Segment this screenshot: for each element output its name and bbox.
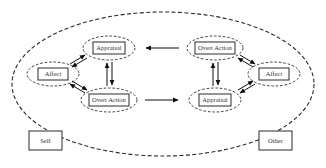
self-overt-action-label: Overt Action (92, 96, 127, 103)
other-affect-label: Affect (266, 70, 283, 77)
other-overt-action-to-affect-arrow (240, 55, 255, 64)
self-affect-label: Affect (45, 70, 62, 77)
self-label: Self (40, 137, 51, 144)
other-overt-action-node: Overt Action (187, 36, 243, 60)
self-overt-action-node: Overt Action (81, 88, 137, 112)
self-overt-action-to-affect-arrow (70, 84, 85, 93)
other-appraisal-node: Appraisal (189, 88, 241, 112)
diagram-svg: Appraisal Affect Overt Action Overt Acti… (0, 0, 326, 168)
self-appraisal-to-affect-arrow (72, 58, 87, 67)
other-label-node: Other (259, 131, 292, 150)
other-affect-to-appraisal-arrow (240, 84, 255, 93)
self-appraisal-node: Appraisal (83, 36, 135, 60)
other-label: Other (268, 137, 284, 144)
other-appraisal-label: Appraisal (202, 96, 227, 103)
other-appraisal-to-affect-arrow (238, 81, 253, 90)
self-appraisal-label: Appraisal (96, 44, 121, 51)
self-affect-to-appraisal-arrow (70, 55, 85, 64)
diagram-canvas: Appraisal Affect Overt Action Overt Acti… (0, 0, 326, 168)
other-overt-action-label: Overt Action (198, 44, 233, 51)
self-affect-node: Affect (27, 62, 79, 86)
self-affect-to-overt-action-arrow (72, 81, 87, 90)
self-label-node: Self (29, 131, 62, 150)
other-affect-node: Affect (248, 62, 300, 86)
other-affect-to-overt-action-arrow (238, 58, 253, 67)
